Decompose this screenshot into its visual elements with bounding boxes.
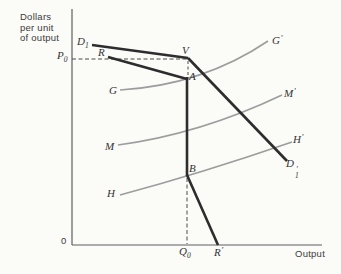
label-layer: D1RVP0GAG′MM′HH′BD′1Q0R′0Output xyxy=(0,0,341,274)
label-R: R xyxy=(98,47,105,58)
label-H: H xyxy=(107,188,115,199)
label-A: A xyxy=(189,71,196,82)
kinked-demand-figure: Dollars per unit of output D1RVP0GAG′MM′… xyxy=(0,0,341,274)
label-M-prime: M′ xyxy=(284,86,296,99)
label-R-prime: R′ xyxy=(214,245,223,258)
label-G: G xyxy=(109,85,117,96)
label-G-prime: G′ xyxy=(272,33,282,46)
label-Q0: Q0 xyxy=(179,246,191,261)
label-D1-prime: D′1 xyxy=(286,158,299,180)
label-M: M xyxy=(105,141,114,152)
label-D1: D1 xyxy=(77,36,89,51)
label-P0: P0 xyxy=(57,50,67,65)
label-H-prime: H′ xyxy=(293,132,303,145)
label-origin: 0 xyxy=(61,236,67,246)
label-B: B xyxy=(189,163,196,174)
label-V: V xyxy=(182,45,189,56)
label-output: Output xyxy=(295,249,325,259)
